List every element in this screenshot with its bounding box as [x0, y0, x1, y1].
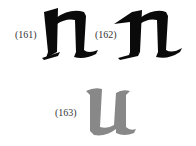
letter-u-163-icon [80, 87, 136, 139]
letter-n-162-icon [112, 8, 184, 60]
figure-label-163: (163) [55, 108, 77, 118]
figure-label-161: (161) [15, 30, 37, 40]
letter-n-161-icon [40, 8, 100, 60]
